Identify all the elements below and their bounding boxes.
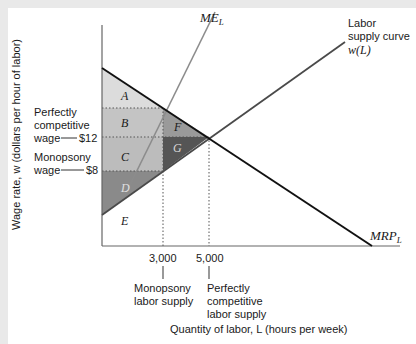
supply-label-2: supply curve xyxy=(348,30,410,42)
x-tick-3000: 3,000 xyxy=(149,252,177,264)
region-c xyxy=(102,137,163,171)
x5000-note-1: Perfectly xyxy=(207,282,250,294)
label-c: C xyxy=(121,150,130,164)
y12-label-3: wage xyxy=(33,132,60,144)
label-e: E xyxy=(120,214,129,228)
y8-value: $8 xyxy=(86,164,98,176)
label-a: A xyxy=(120,89,129,103)
x5000-note-2: competitive xyxy=(207,295,263,307)
x5000-note-3: labor supply xyxy=(207,308,267,320)
y8-label-1: Monopsony xyxy=(34,151,91,163)
x-tick-5000: 5,000 xyxy=(196,252,224,264)
label-b: B xyxy=(121,116,129,130)
chart: A B C D E F G MEL Labor supply curve w(L… xyxy=(0,0,416,344)
x-axis-title: Quantity of labor, L (hours per week) xyxy=(170,323,348,335)
label-d: D xyxy=(120,181,130,195)
supply-label-1: Labor xyxy=(348,17,376,29)
supply-label-func: w(L) xyxy=(348,43,371,57)
y8-label-2: wage xyxy=(33,164,60,176)
y-axis-title: Wage rate, w (dollars per hour of labor) xyxy=(10,39,22,230)
label-g: G xyxy=(173,141,182,155)
x3000-note-2: labor supply xyxy=(134,295,194,307)
y12-label-1: Perfectly xyxy=(34,106,77,118)
x3000-note-1: Monopsony xyxy=(134,282,191,294)
y12-value: $12 xyxy=(79,132,97,144)
region-b xyxy=(102,108,163,137)
y12-label-2: competitive xyxy=(34,119,90,131)
label-f: F xyxy=(173,120,182,134)
